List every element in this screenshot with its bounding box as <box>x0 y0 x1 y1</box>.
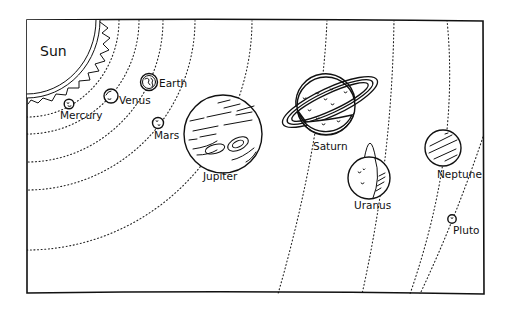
uranus-label: Uranus <box>354 199 391 211</box>
planet-mars: Mars <box>153 118 180 142</box>
sun-label: Sun <box>40 43 67 59</box>
pluto-label: Pluto <box>453 224 479 236</box>
orbit-saturn <box>278 20 327 294</box>
planet-jupiter: Jupiter <box>184 95 262 182</box>
planet-saturn: Saturn <box>277 67 383 152</box>
planet-earth: Earth <box>141 74 188 91</box>
planet-mercury: Mercury <box>60 99 103 121</box>
mars-label: Mars <box>154 129 179 141</box>
planet-venus: Venus <box>104 89 151 106</box>
planet-neptune: Neptune <box>425 130 482 180</box>
mercury-label: Mercury <box>60 109 103 121</box>
venus-label: Venus <box>119 94 151 106</box>
solar-system-diagram: Sun Mercury Venus Earth Mars <box>0 0 507 309</box>
planet-pluto: Pluto <box>448 215 480 236</box>
jupiter-label: Jupiter <box>202 170 238 182</box>
planet-uranus: Uranus <box>348 143 391 211</box>
saturn-label: Saturn <box>313 140 348 152</box>
earth-label: Earth <box>159 77 187 89</box>
sun: Sun <box>27 20 110 104</box>
neptune-label: Neptune <box>437 168 482 180</box>
